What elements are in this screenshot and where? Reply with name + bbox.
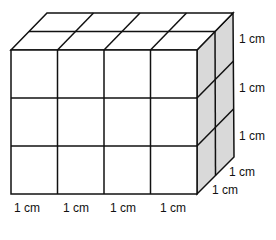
label-bottom-4: 1 cm bbox=[160, 202, 186, 214]
label-depth-1: 1 cm bbox=[229, 166, 255, 178]
label-bottom-1: 1 cm bbox=[14, 202, 40, 214]
label-depth-2: 1 cm bbox=[212, 184, 238, 196]
label-right-3: 1 cm bbox=[239, 130, 265, 142]
label-bottom-3: 1 cm bbox=[110, 202, 136, 214]
label-bottom-2: 1 cm bbox=[63, 202, 89, 214]
label-right-1: 1 cm bbox=[239, 33, 265, 45]
label-right-2: 1 cm bbox=[239, 82, 265, 94]
